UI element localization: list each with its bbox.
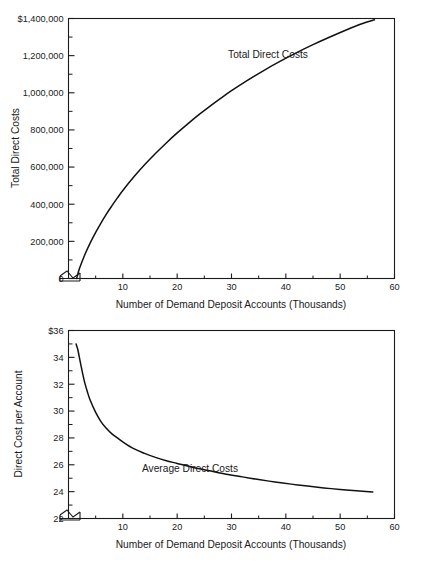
- chart-average-direct-costs: 22242628303234$36102030405060 Average Di…: [0, 300, 422, 567]
- axis-ticks-group: 22242628303234$36102030405060: [48, 326, 399, 532]
- y-tick-label: 30: [53, 406, 63, 416]
- y-tick-label: $1,400,000: [18, 14, 64, 24]
- y-tick-label: 200,000: [30, 237, 63, 247]
- x-axis-title: Number of Demand Deposit Accounts (Thous…: [116, 539, 346, 550]
- y-tick-label: 1,200,000: [23, 51, 64, 61]
- x-tick-label: 40: [281, 522, 291, 532]
- x-tick-label: 10: [118, 522, 128, 532]
- axis-ticks-group: 0200,000400,000600,000800,0001,000,0001,…: [18, 14, 400, 292]
- figure-page: 0200,000400,000600,000800,0001,000,0001,…: [0, 0, 422, 567]
- series-annotation-total-direct-costs: Total Direct Costs: [228, 49, 308, 60]
- y-axis-title: Direct Cost per Account: [13, 370, 24, 477]
- y-tick-label: 400,000: [30, 200, 63, 210]
- x-tick-label: 30: [226, 282, 236, 292]
- x-tick-label: 50: [335, 282, 345, 292]
- x-tick-label: 20: [172, 522, 182, 532]
- x-tick-label: 50: [335, 522, 345, 532]
- x-tick-label: 30: [226, 522, 236, 532]
- y-tick-label: 800,000: [30, 125, 63, 135]
- x-tick-label: 10: [118, 282, 128, 292]
- y-tick-label: 1,000,000: [23, 88, 64, 98]
- series-annotation-average-direct-costs: Average Direct Costs: [142, 463, 238, 474]
- data-curve-total-direct-costs: [77, 20, 375, 279]
- x-tick-label: 60: [389, 282, 399, 292]
- y-axis-title: Total Direct Costs: [10, 108, 21, 188]
- y-tick-label: 34: [53, 353, 63, 363]
- x-tick-label: 20: [172, 282, 182, 292]
- chart-bottom-svg: 22242628303234$36102030405060 Average Di…: [0, 300, 422, 567]
- x-tick-label: 60: [389, 522, 399, 532]
- y-tick-label: 600,000: [30, 162, 63, 172]
- chart-top-svg: 0200,000400,000600,000800,0001,000,0001,…: [0, 0, 422, 318]
- y-tick-label: 28: [53, 433, 63, 443]
- x-tick-label: 40: [281, 282, 291, 292]
- y-tick-label: 24: [53, 487, 63, 497]
- y-tick-label: 26: [53, 460, 63, 470]
- y-tick-label: 32: [53, 380, 63, 390]
- y-tick-label: $36: [48, 326, 63, 336]
- chart-total-direct-costs: 0200,000400,000600,000800,0001,000,0001,…: [0, 0, 422, 318]
